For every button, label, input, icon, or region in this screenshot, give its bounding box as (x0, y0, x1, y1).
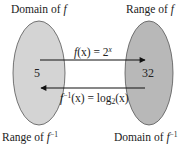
value-5: 5 (34, 67, 40, 79)
inverse-function-label: f−1(x) = log2(x) (60, 92, 129, 106)
range-of-f-inverse-label: Range of f−1 (2, 131, 58, 144)
forward-function-label: f(x) = 2x (74, 46, 112, 59)
range-of-f-label: Range of f (126, 4, 174, 16)
value-32: 32 (142, 67, 154, 79)
domain-of-f-inverse-label: Domain of f−1 (114, 131, 178, 144)
domain-of-f-label: Domain of f (11, 4, 67, 16)
